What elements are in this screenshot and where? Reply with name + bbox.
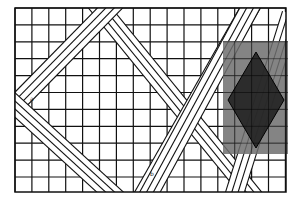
shaded-overlay [223,41,288,154]
label-b: b [150,170,154,177]
grid-diagram: ab [0,0,299,205]
label-a: a [30,95,34,102]
